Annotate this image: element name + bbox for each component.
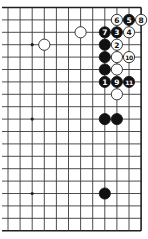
white-stone	[111, 52, 122, 63]
move-number: 2	[114, 41, 119, 50]
move-number: 5	[126, 16, 131, 25]
black-stone	[99, 39, 110, 50]
stone-icon	[111, 89, 122, 100]
stone-icon	[99, 64, 110, 75]
black-stone-move-9: 9	[111, 76, 122, 87]
black-stone	[99, 64, 110, 75]
move-number: 9	[114, 78, 119, 87]
move-number: 6	[114, 16, 119, 25]
white-stone	[75, 27, 86, 38]
star-point	[31, 43, 34, 46]
black-stone	[99, 52, 110, 63]
move-number: 8	[138, 16, 143, 25]
white-stone	[111, 89, 122, 100]
black-stone	[99, 114, 110, 125]
move-number: 10	[125, 54, 133, 61]
move-number: 1	[102, 78, 107, 87]
move-number: 7	[102, 28, 107, 37]
stone-icon	[111, 114, 122, 125]
white-stone	[39, 39, 50, 50]
star-point	[31, 192, 34, 195]
stone-icon	[99, 52, 110, 63]
black-stone-move-1: 1	[99, 76, 110, 87]
stone-icon	[111, 64, 122, 75]
star-point	[31, 118, 34, 121]
white-stone-move-8: 8	[136, 14, 147, 25]
black-stone-move-11: 11	[123, 76, 134, 87]
white-stone-move-4: 4	[123, 27, 134, 38]
stone-icon	[99, 39, 110, 50]
stone-icon	[99, 114, 110, 125]
stone-icon	[111, 52, 122, 63]
black-stone-move-7: 7	[99, 27, 110, 38]
black-stone	[99, 188, 110, 199]
go-board: 6587342101911	[0, 0, 148, 239]
stone-icon	[75, 27, 86, 38]
black-stone-move-3: 3	[111, 27, 122, 38]
white-stone-move-2: 2	[111, 39, 122, 50]
white-stone-move-10: 10	[123, 52, 134, 63]
stone-icon	[39, 39, 50, 50]
stone-icon	[99, 188, 110, 199]
white-stone	[111, 64, 122, 75]
move-number: 11	[125, 79, 133, 86]
black-stone-move-5: 5	[123, 14, 134, 25]
white-stone-move-6: 6	[111, 14, 122, 25]
move-number: 4	[126, 28, 131, 37]
black-stone	[111, 114, 122, 125]
move-number: 3	[114, 28, 119, 37]
